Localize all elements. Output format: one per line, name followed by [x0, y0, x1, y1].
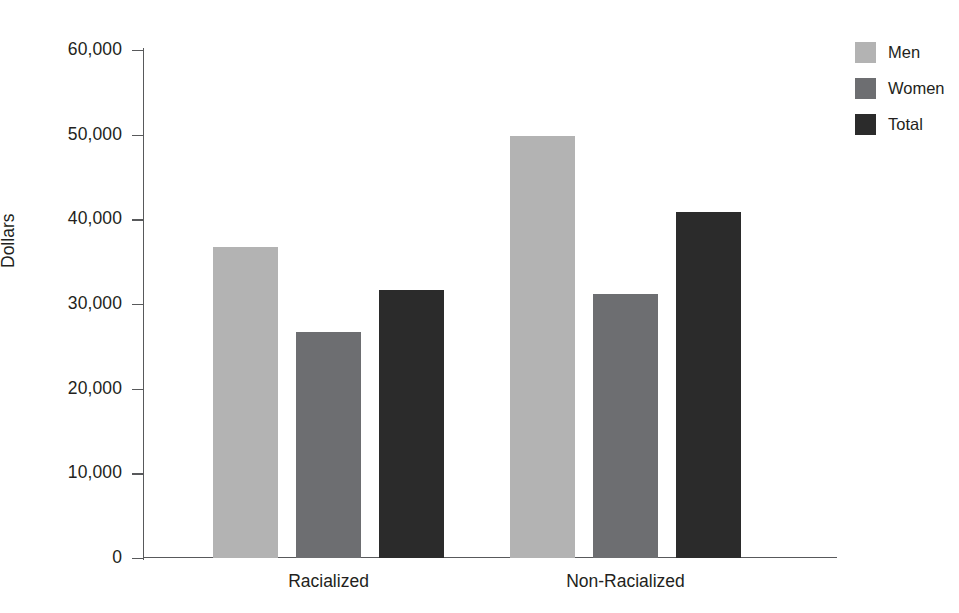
y-axis-tick-label: 30,000	[22, 295, 122, 313]
x-axis-label-racialized: Racialized	[288, 571, 369, 592]
legend-swatch-total	[855, 114, 876, 135]
y-axis-tick-label: 0	[22, 549, 122, 567]
bar-women-non-racialized	[593, 294, 658, 558]
y-axis-tick-label: 10,000	[22, 464, 122, 482]
legend-swatch-men	[855, 42, 876, 63]
bar-total-racialized	[379, 290, 444, 558]
legend-item-total: Total	[855, 108, 945, 140]
bar-chart: Dollars 60,00050,00040,00030,00020,00010…	[0, 0, 959, 613]
bar-men-non-racialized	[510, 136, 575, 558]
y-axis-tick-label: 60,000	[22, 41, 122, 59]
y-axis-title: Dollars	[0, 214, 19, 268]
y-axis-tick-label: 50,000	[22, 126, 122, 144]
y-axis-tick-label: 40,000	[22, 210, 122, 228]
legend-item-women: Women	[855, 72, 945, 104]
bar-total-non-racialized	[676, 212, 741, 558]
chart-legend: MenWomenTotal	[855, 36, 945, 144]
legend-item-men: Men	[855, 36, 945, 68]
legend-label: Total	[888, 115, 923, 134]
legend-swatch-women	[855, 78, 876, 99]
bar-women-racialized	[296, 332, 361, 558]
bar-men-racialized	[213, 247, 278, 558]
y-axis-tick-label: 20,000	[22, 380, 122, 398]
plot-area	[144, 50, 834, 558]
legend-label: Men	[888, 43, 920, 62]
x-axis-label-non-racialized: Non-Racialized	[566, 571, 685, 592]
legend-label: Women	[888, 79, 945, 98]
